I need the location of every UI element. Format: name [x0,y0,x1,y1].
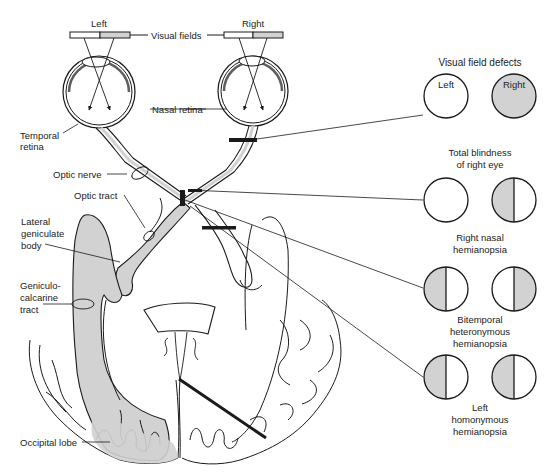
defect-caption-3b: heteronymous [450,326,510,337]
lateral-geniculate-label-3: body [21,240,42,251]
chiasm-lesion-mark [180,190,185,206]
right-eye-label: Right [242,18,264,29]
defect-caption-4c: hemianopsia [453,426,507,437]
defect-caption-3c: hemianopsia [453,338,507,349]
left-optic-tract [116,202,190,296]
defect-caption-1a: Total blindness [449,147,512,158]
defects-title: Visual field defects [438,57,521,68]
defect-caption-2b: hemianopsia [453,244,507,255]
visual-fields-label: Visual fields [151,30,202,41]
geniculocalcarine-label-2: calcarine [20,292,58,303]
optic-nerve-label: Optic nerve [53,169,102,180]
corpus-callosum [144,303,215,334]
geniculocalcarine-label-1: Geniculo- [20,280,61,291]
defect-caption-1b: of right eye [457,159,504,170]
defects-col-right: Right [503,79,525,90]
occipital-lesion-mark [179,379,266,438]
nasal-retina-label: Nasal retina [152,104,203,115]
defects-col-left: Left [438,79,454,90]
right-optic-nerve-lesion-mark [229,138,257,142]
defect-caption-2a: Right nasal [456,232,504,243]
left-eye [63,38,135,128]
defect-row-2 [424,178,536,222]
geniculocalcarine-label-3: tract [20,304,38,315]
defect-caption-3a: Bitemporal [457,314,502,325]
right-visual-field-bar [224,32,283,38]
right-eye [218,38,288,126]
optic-tract-label: Optic tract [74,190,117,201]
left-eye-label: Left [91,18,107,29]
occipital-lobe-label: Occipital lobe [20,437,77,448]
lateral-geniculate-label-1: Lateral [21,216,50,227]
defect-row-3 [424,267,536,311]
left-visual-field-bar [70,32,130,38]
lesion-pointer-lines [185,115,423,377]
right-geniculocalcarine-outline [232,217,288,442]
defect-row-4 [424,355,536,399]
right-optic-tract [195,205,252,287]
temporal-retina-label-2: retina [20,141,44,152]
temporal-retina-label-1: Temporal [20,130,59,141]
defect-caption-4b: homonymous [451,414,508,425]
defect-caption-4a: Left [472,402,488,413]
lateral-geniculate-label-2: geniculate [21,228,64,239]
